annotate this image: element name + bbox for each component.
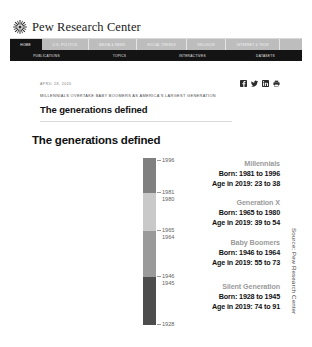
generations-figure: The generations defined 1996 1981 1980 1…	[32, 134, 280, 334]
linkedin-icon[interactable]	[262, 80, 269, 87]
generation-name: Silent Generation	[148, 282, 280, 291]
generation-block-baby-boomers: Baby Boomers Born: 1946 to 1964 Age in 2…	[148, 238, 280, 267]
axis-label-1946: 1946	[162, 273, 174, 279]
site-chrome: Pew Research Center HOME U.S. POLITICS M…	[10, 16, 302, 61]
axis-tick	[157, 192, 161, 193]
article-header: APRIL 28, 2020 MILLENNIALS OVERTAKE BABY…	[40, 82, 280, 122]
figure-title: The generations defined	[32, 134, 280, 146]
social-share-bar	[240, 80, 280, 87]
axis-tick	[157, 230, 161, 231]
axis-label-1965: 1965	[162, 227, 174, 233]
generation-born: Born: 1928 to 1945	[148, 292, 280, 301]
primary-nav: HOME U.S. POLITICS MEDIA & NEWS SOCIAL T…	[10, 38, 302, 50]
header-divider	[40, 121, 232, 122]
secondary-nav: PUBLICATIONS TOPICS INTERACTIVES DATASET…	[10, 50, 302, 61]
axis-label-1928: 1928	[162, 321, 174, 327]
facebook-icon[interactable]	[240, 80, 247, 87]
axis-tick	[157, 324, 161, 325]
article-kicker: MILLENNIALS OVERTAKE BABY BOOMERS AS AME…	[40, 93, 280, 98]
source-credit: Source: Pew Research Center	[291, 228, 298, 314]
article-subhead: The generations defined	[40, 104, 280, 115]
axis-label-1981: 1981	[162, 189, 174, 195]
nav-item-internet-tech[interactable]: INTERNET & TECH	[226, 39, 280, 50]
generation-block-generation-x: Generation X Born: 1965 to 1980 Age in 2…	[148, 198, 280, 227]
generation-born: Born: 1965 to 1980	[148, 208, 280, 217]
generation-born: Born: 1946 to 1964	[148, 248, 280, 257]
site-header: Pew Research Center	[10, 16, 302, 38]
subnav-item-publications[interactable]: PUBLICATIONS	[10, 54, 83, 58]
site-brand-title[interactable]: Pew Research Center	[32, 20, 141, 35]
chart-plot-area: 1996 1981 1980 1965 1964 1946 1945 1928 …	[32, 158, 280, 330]
screenshot-root: Pew Research Center HOME U.S. POLITICS M…	[0, 0, 312, 347]
sunburst-icon	[13, 20, 27, 34]
nav-item-home[interactable]: HOME	[10, 39, 42, 50]
generation-age: Age in 2019: 23 to 38	[148, 179, 280, 188]
generation-age: Age in 2019: 74 to 91	[148, 302, 280, 311]
subnav-item-topics[interactable]: TOPICS	[83, 54, 156, 58]
generation-name: Generation X	[148, 198, 280, 207]
nav-item-religion[interactable]: RELIGION	[187, 39, 226, 50]
generation-name: Baby Boomers	[148, 238, 280, 247]
subnav-item-datasets[interactable]: DATASETS	[229, 54, 302, 58]
generation-born: Born: 1981 to 1996	[148, 169, 280, 178]
nav-item-us-politics[interactable]: U.S. POLITICS	[42, 39, 89, 50]
nav-item-social-trends[interactable]: SOCIAL TRENDS	[137, 39, 187, 50]
nav-item-overflow[interactable]	[280, 39, 302, 50]
axis-tick	[157, 276, 161, 277]
subnav-item-interactives[interactable]: INTERACTIVES	[156, 54, 229, 58]
print-icon[interactable]	[273, 80, 280, 87]
twitter-icon[interactable]	[251, 80, 258, 87]
nav-item-media-news[interactable]: MEDIA & NEWS	[89, 39, 137, 50]
generation-block-millennials: Millennials Born: 1981 to 1996 Age in 20…	[148, 159, 280, 188]
generation-name: Millennials	[148, 159, 280, 168]
generation-block-silent-generation: Silent Generation Born: 1928 to 1945 Age…	[148, 282, 280, 311]
source-credit-wrapper: Source: Pew Research Center	[293, 228, 303, 338]
generation-age: Age in 2019: 39 to 54	[148, 218, 280, 227]
generation-age: Age in 2019: 55 to 73	[148, 258, 280, 267]
